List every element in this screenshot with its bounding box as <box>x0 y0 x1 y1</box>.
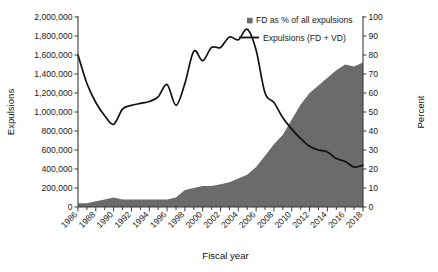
x-axis-tick-label: 2012 <box>290 209 311 230</box>
chart-container: 0200,000400,000600,000800,0001,000,0001,… <box>0 0 438 272</box>
y-axis-left-tick-label: 1,800,000 <box>34 31 72 41</box>
y-axis-right-tick-label: 20 <box>369 164 379 174</box>
y-axis-right-tick-label: 10 <box>369 183 379 193</box>
y-axis-left-tick-label: 400,000 <box>41 164 72 174</box>
y-axis-right-tick-label: 80 <box>369 50 379 60</box>
x-axis-tick-label: 2016 <box>326 209 347 230</box>
x-axis-tick-label: 2010 <box>273 209 294 230</box>
y-axis-left-tick-label: 200,000 <box>41 183 72 193</box>
y-axis-right-tick-label: 40 <box>369 126 379 136</box>
x-axis-tick-label: 2004 <box>219 209 240 230</box>
y-axis-left-tick-label: 2,000,000 <box>34 12 72 22</box>
x-axis-tick-label: 2006 <box>237 209 258 230</box>
expulsions-chart: 0200,000400,000600,000800,0001,000,0001,… <box>0 0 438 272</box>
x-axis-tick-label: 2000 <box>184 209 205 230</box>
y-axis-left-tick-label: 1,200,000 <box>34 88 72 98</box>
x-axis-tick-label: 1996 <box>148 209 169 230</box>
y-axis-left-tick-label: 1,000,000 <box>34 107 72 117</box>
legend-label-expulsions: Expulsions (FD + VD) <box>263 33 346 43</box>
legend-swatch-fd-percent <box>247 18 253 24</box>
x-axis-tick-label: 1994 <box>130 209 151 230</box>
y-axis-left-tick-label: 1,600,000 <box>34 50 72 60</box>
x-axis-title: Fiscal year <box>202 250 249 261</box>
y-axis-right-tick-label: 70 <box>369 69 379 79</box>
x-axis-tick-label: 1988 <box>77 209 98 230</box>
x-axis-tick-label: 2008 <box>255 209 276 230</box>
x-axis-tick-label: 2018 <box>344 209 365 230</box>
legend-label-fd-percent: FD as % of all expulsions <box>256 15 352 25</box>
x-axis-tick-label: 1998 <box>166 209 187 230</box>
y-axis-right-tick-label: 100 <box>369 12 384 22</box>
y-axis-left-tick-label: 800,000 <box>41 126 72 136</box>
x-axis-tick-label: 1986 <box>59 209 80 230</box>
y-axis-right-tick-label: 60 <box>369 88 379 98</box>
series-area-fd-percent <box>78 63 363 207</box>
y-axis-right-tick-label: 90 <box>369 31 379 41</box>
y-axis-left-tick-label: 1,400,000 <box>34 69 72 79</box>
x-axis-tick-label: 2014 <box>308 209 329 230</box>
x-axis-tick-label: 1992 <box>112 209 133 230</box>
y-axis-right-tick-label: 50 <box>369 107 379 117</box>
x-axis-tick-label: 1990 <box>94 209 115 230</box>
y-axis-right-tick-label: 30 <box>369 145 379 155</box>
x-axis-tick-label: 2002 <box>201 209 222 230</box>
y-axis-right-title: Percent <box>415 95 426 128</box>
y-axis-right-tick-label: 0 <box>369 202 374 212</box>
y-axis-left-title: Expulsions <box>5 89 16 136</box>
y-axis-left-tick-label: 600,000 <box>41 145 72 155</box>
